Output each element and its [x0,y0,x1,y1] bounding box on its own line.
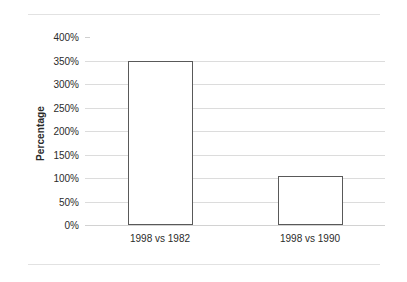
y-tick-stub-400 [85,37,90,38]
y-tick-label: 200% [53,126,79,137]
gridline-0 [85,225,385,226]
y-tick-label: 100% [53,173,79,184]
bar-chart-figure: Percentage 400%350%300%250%200%150%100%5… [0,0,407,282]
y-tick-label: 150% [53,149,79,160]
plot-area: 400%350%300%250%200%150%100%50%0%1998 vs… [85,37,385,225]
y-tick-label: 400% [53,32,79,43]
x-category-label: 1998 vs 1982 [130,233,190,244]
bar-1[interactable] [128,61,193,226]
top-divider-rule [28,14,380,15]
y-tick-label: 350% [53,55,79,66]
x-category-label: 1998 vs 1990 [280,233,340,244]
y-tick-label: 300% [53,79,79,90]
y-axis-title: Percentage [35,74,46,194]
y-tick-label: 0% [65,220,79,231]
y-tick-label: 50% [59,196,79,207]
bar-2[interactable] [278,176,343,225]
bottom-divider-rule [28,264,380,265]
y-tick-label: 250% [53,102,79,113]
